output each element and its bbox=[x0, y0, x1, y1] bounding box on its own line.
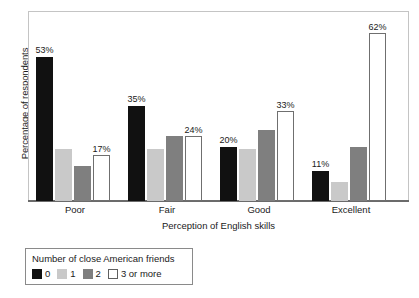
legend-swatch bbox=[83, 269, 93, 279]
legend-swatch bbox=[32, 269, 42, 279]
bar: 35% bbox=[128, 106, 145, 201]
bar-chart: Percentage of respondents 53%17%35%24%20… bbox=[0, 0, 419, 298]
x-axis-title: Perception of English skills bbox=[28, 220, 409, 231]
bar-value-label: 20% bbox=[219, 135, 237, 145]
bar: 53% bbox=[36, 57, 53, 201]
legend: Number of close American friends 0123 or… bbox=[25, 248, 193, 285]
bar-value-label: 11% bbox=[312, 159, 329, 169]
bar: 17% bbox=[93, 155, 110, 201]
bar bbox=[239, 149, 256, 201]
bar bbox=[147, 149, 164, 201]
legend-item-label: 0 bbox=[45, 268, 50, 279]
bar bbox=[55, 149, 72, 201]
bar-value-label: 62% bbox=[368, 22, 386, 32]
bar: 11% bbox=[312, 171, 329, 201]
bar-value-label: 35% bbox=[127, 94, 145, 104]
legend-item-label: 2 bbox=[96, 268, 101, 279]
legend-swatch bbox=[108, 269, 118, 279]
legend-item-label: 1 bbox=[70, 268, 75, 279]
bar-group-bars: 35%24% bbox=[128, 11, 202, 201]
bar-value-label: 33% bbox=[276, 100, 294, 110]
bar-group-bars: 11%62% bbox=[312, 11, 386, 201]
bar: 62% bbox=[369, 33, 386, 201]
bar-value-label: 17% bbox=[92, 144, 110, 154]
category-tick-label: Excellent bbox=[296, 204, 406, 216]
bar-group-bars: 20%33% bbox=[220, 11, 294, 201]
bar: 24% bbox=[185, 136, 202, 201]
legend-swatch bbox=[57, 269, 67, 279]
bar-group-bars: 53%17% bbox=[36, 11, 110, 201]
bar: 20% bbox=[220, 147, 237, 201]
legend-item: 3 or more bbox=[108, 268, 162, 279]
legend-items: 0123 or more bbox=[32, 268, 186, 279]
bar bbox=[258, 130, 275, 201]
legend-item: 0 bbox=[32, 268, 50, 279]
bar bbox=[166, 136, 183, 201]
bar bbox=[350, 147, 367, 201]
legend-item: 2 bbox=[83, 268, 101, 279]
legend-item: 1 bbox=[57, 268, 75, 279]
bar-value-label: 24% bbox=[184, 125, 202, 135]
legend-title: Number of close American friends bbox=[32, 253, 186, 265]
bar: 33% bbox=[277, 111, 294, 201]
bar bbox=[74, 166, 91, 201]
legend-item-label: 3 or more bbox=[121, 268, 162, 279]
bar bbox=[331, 182, 348, 201]
bar-value-label: 53% bbox=[35, 45, 53, 55]
